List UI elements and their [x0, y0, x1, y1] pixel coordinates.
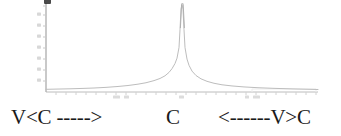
resonance-plot-svg	[0, 0, 341, 100]
caption-left-label: V<C ----->	[11, 104, 102, 130]
resonance-figure: V<C -----> C <------V>C	[0, 0, 341, 136]
x-axis-tick-labels	[113, 96, 260, 99]
y-axis-tick-labels	[37, 13, 41, 82]
resonance-curve	[46, 4, 318, 89]
caption-right-label: <------V>C	[218, 104, 311, 130]
caption-center-label: C	[166, 104, 180, 130]
plot-area	[0, 0, 341, 100]
y-axis-top-clipped-label	[44, 0, 51, 4]
caption-row: V<C -----> C <------V>C	[0, 100, 341, 136]
